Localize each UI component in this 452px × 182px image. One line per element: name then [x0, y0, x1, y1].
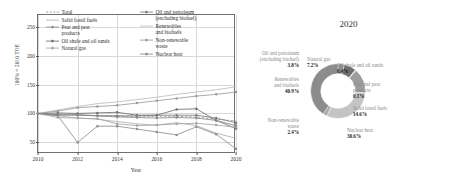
- donut-label-natural-gas-name: Natural gas: [307, 56, 330, 62]
- series-marker: [175, 97, 178, 100]
- donut-label-nuclear-heat-value: 30.6%: [347, 134, 421, 140]
- series-marker: [96, 115, 99, 118]
- donut-chart-panel: 2020 Oil and petroleum (excluding biofue…: [245, 0, 452, 182]
- series-marker: [57, 114, 60, 117]
- legend-item-label: Natural gas: [62, 45, 86, 51]
- x-tick-label: 2016: [151, 156, 162, 162]
- donut-label-solid-fossil-fuels-value: 14.6%: [353, 112, 439, 118]
- series-marker: [215, 93, 218, 96]
- x-tick-label: 2018: [191, 156, 202, 162]
- y-tick-label: 100: [27, 110, 35, 116]
- series-marker: [156, 131, 159, 134]
- legend-item-label: Renewables and biofuels: [156, 23, 182, 36]
- y-tick-label: 250: [27, 24, 35, 30]
- donut-label-non-renewable-waste: Non-renewable waste 2.4%: [237, 112, 299, 142]
- series-marker: [96, 125, 99, 128]
- donut-label-renewables-and-biofuels-value: 40.9%: [239, 89, 299, 95]
- series-marker: [195, 122, 198, 125]
- legend-item-label: Oil and petroleum (excluding biofuel): [156, 9, 197, 22]
- line-chart-panel: 100% = 2010 TOE Year 50100150200250 2010…: [0, 0, 245, 182]
- legend-item[interactable]: Oil shale and oil sands: [46, 38, 134, 44]
- legend-item[interactable]: Solid fossil fuels: [46, 17, 134, 23]
- series-marker: [195, 126, 198, 129]
- donut-label-solid-fossil-fuels-name: Solid fossil fuels: [353, 105, 387, 111]
- legend-item[interactable]: Peat and peat products: [46, 24, 134, 37]
- series-marker: [156, 114, 159, 117]
- legend-item[interactable]: Natural gas: [46, 45, 134, 51]
- donut-title: 2020: [245, 19, 452, 29]
- series-marker: [96, 117, 99, 120]
- series-marker: [175, 108, 178, 111]
- series-marker: [76, 117, 79, 120]
- line-with-marker-icon: [140, 9, 153, 15]
- donut-label-nuclear-heat: Nuclear heat 30.6%: [347, 122, 421, 146]
- series-marker: [96, 105, 99, 108]
- legend-item-label: Solid fossil fuels: [62, 17, 98, 23]
- x-tick-label: 2012: [72, 156, 83, 162]
- series-marker: [175, 134, 178, 137]
- donut-label-non-renewable-waste-name: Non-renewable waste: [268, 117, 299, 129]
- x-tick-label: 2010: [33, 156, 44, 162]
- figure: 100% = 2010 TOE Year 50100150200250 2010…: [0, 0, 452, 182]
- x-axis-label: Year: [36, 167, 236, 173]
- y-tick-label: 200: [27, 53, 35, 59]
- y-tick-label: 50: [30, 139, 35, 145]
- line-with-marker-icon: [46, 38, 59, 44]
- x-tick-label: 2020: [231, 156, 242, 162]
- series-marker: [116, 125, 119, 128]
- series-marker: [195, 108, 198, 111]
- legend-item[interactable]: Oil and petroleum (excluding biofuel): [140, 9, 232, 22]
- donut-label-peat-and-peat-products-name: Peat and peat products: [353, 81, 380, 93]
- line-with-marker-icon: [46, 45, 59, 51]
- series-marker: [136, 124, 139, 127]
- series-marker: [175, 116, 178, 119]
- donut-label-renewables-and-biofuels-name: Renewables and biofuels: [274, 76, 299, 88]
- legend-item[interactable]: Total: [46, 9, 134, 15]
- donut-label-non-renewable-waste-value: 2.4%: [237, 130, 299, 136]
- series-marker: [156, 124, 159, 127]
- x-tick-label: 2014: [112, 156, 123, 162]
- legend-item-label: Oil shale and oil sands: [62, 38, 110, 44]
- series-marker: [116, 123, 119, 126]
- legend-item-label: Total: [62, 9, 73, 15]
- series-marker: [76, 113, 79, 116]
- donut-label-oil-shale-and-oil-sands-name: Oil shale and oil sands: [337, 62, 383, 68]
- series-marker: [235, 91, 238, 94]
- solid-line-icon: [140, 23, 153, 29]
- series-marker: [215, 117, 218, 120]
- donut-label-oil-and-petroleum-name: Oil and petroleum (excluding biofuel): [260, 50, 299, 62]
- series-marker: [195, 95, 198, 98]
- donut-label-nuclear-heat-name: Nuclear heat: [347, 127, 373, 133]
- legend-item-label: Nuclear heat: [156, 51, 183, 57]
- donut-label-solid-fossil-fuels: Solid fossil fuels 14.6%: [353, 100, 439, 124]
- series-marker: [215, 119, 218, 122]
- series-marker: [156, 99, 159, 102]
- line-with-marker-icon: [140, 37, 153, 43]
- legend-item-label: Non-renewable waste: [156, 37, 189, 50]
- series-marker: [215, 133, 218, 136]
- legend-item-label: Peat and peat products: [62, 24, 90, 37]
- series-marker: [76, 141, 79, 144]
- solid-line-icon: [46, 17, 59, 23]
- series-marker: [57, 110, 60, 113]
- series-marker: [136, 128, 139, 131]
- series-marker: [136, 102, 139, 105]
- series-marker: [116, 111, 119, 114]
- series-marker: [195, 117, 198, 120]
- series-marker: [136, 116, 139, 119]
- series-marker: [175, 123, 178, 126]
- donut-label-renewables-and-biofuels: Renewables and biofuels 40.9%: [239, 71, 299, 101]
- series-marker: [116, 104, 119, 107]
- series-marker: [96, 112, 99, 115]
- dashed-line-icon: [46, 9, 59, 15]
- legend-column-left: TotalSolid fossil fuelsPeat and peat pro…: [46, 9, 134, 53]
- legend-item[interactable]: Renewables and biofuels: [140, 23, 232, 36]
- series-marker: [156, 117, 159, 120]
- series-marker: [37, 112, 40, 115]
- donut-label-oil-shale-and-oil-sands-value: 0.4%: [337, 69, 433, 75]
- series-marker: [76, 106, 79, 109]
- series-marker: [235, 148, 238, 151]
- series-marker: [57, 116, 60, 119]
- donut-label-peat-and-peat-products-value: 0.1%: [353, 94, 427, 100]
- line-with-marker-icon: [140, 51, 153, 57]
